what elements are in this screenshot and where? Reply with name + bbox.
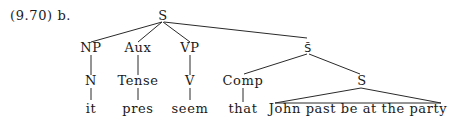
leaf-that: that: [229, 101, 258, 116]
node-s-root: S: [158, 8, 168, 23]
edge-sbar-s: [309, 54, 360, 74]
edge-s-sbar: [164, 22, 307, 38]
leaf-pres: pres: [122, 101, 153, 116]
node-np: NP: [80, 40, 101, 55]
node-s-bar: S̄: [304, 42, 312, 55]
node-v: V: [184, 73, 195, 88]
edge-s-np: [91, 22, 162, 42]
example-label: (9.70) b.: [10, 8, 71, 23]
edge-s-vp: [163, 22, 190, 42]
leaf-clause: John past be at the party: [267, 101, 448, 116]
syntax-tree-diagram: (9.70) b. S NP Aux VP S̄ N Tense V Comp …: [0, 0, 461, 122]
node-n: N: [85, 73, 97, 88]
node-vp: VP: [179, 40, 199, 55]
edge-sbar-comp: [244, 54, 307, 74]
tree-edges: [91, 22, 441, 103]
node-comp: Comp: [223, 73, 264, 88]
leaf-seem: seem: [172, 101, 209, 116]
node-aux: Aux: [124, 40, 152, 55]
leaf-it: it: [86, 101, 97, 116]
node-s-inner: S: [357, 73, 367, 88]
node-tense: Tense: [117, 73, 158, 88]
